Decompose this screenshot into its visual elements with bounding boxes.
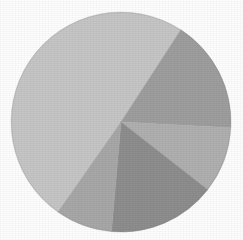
pie-chart-figure [0,0,243,240]
pie-chart-canvas [0,0,243,240]
pie-slices-group [11,12,231,232]
